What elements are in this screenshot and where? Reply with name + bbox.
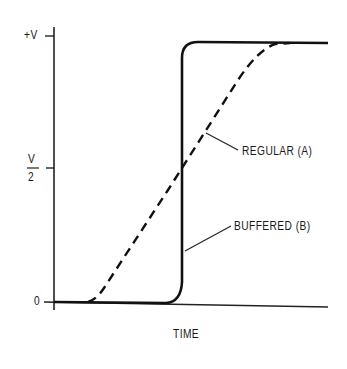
label-regular: REGULAR (A) <box>242 144 312 158</box>
leader-buffered <box>185 226 231 251</box>
curve-buffered <box>54 42 328 303</box>
leader-regular <box>206 133 238 150</box>
x-axis-label: TIME <box>173 327 199 341</box>
tick-label-zero: 0 <box>34 294 40 308</box>
tick-label-half-v-den: 2 <box>28 170 34 184</box>
curve-regular <box>88 43 290 302</box>
waveform-diagram <box>0 0 347 369</box>
tick-label-plus-v: +V <box>24 28 38 42</box>
tick-label-half-v-num: V <box>28 152 35 166</box>
label-buffered: BUFFERED (B) <box>234 219 311 233</box>
